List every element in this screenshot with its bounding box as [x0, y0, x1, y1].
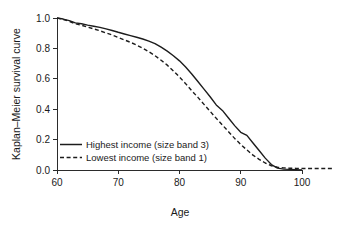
x-axis-ticks: 60708090100 — [51, 170, 310, 188]
chart-legend: Highest income (size band 3) Lowest inco… — [60, 139, 209, 163]
legend-label-lowest-income: Lowest income (size band 1) — [86, 152, 207, 163]
x-tick-label: 80 — [174, 177, 186, 188]
y-axis-title: Kaplan–Meier survival curve — [10, 28, 22, 160]
y-tick-label: 1.0 — [36, 13, 50, 24]
y-tick-label: 0.8 — [36, 43, 50, 54]
y-axis-ticks: 0.00.20.40.60.81.0 — [36, 13, 57, 176]
x-axis-title: Age — [171, 206, 190, 218]
legend-item-lowest-income: Lowest income (size band 1) — [60, 152, 207, 163]
x-tick-label: 60 — [51, 177, 63, 188]
x-tick-label: 70 — [113, 177, 125, 188]
y-tick-label: 0.2 — [36, 134, 50, 145]
y-tick-label: 0.4 — [36, 104, 50, 115]
x-tick-label: 90 — [235, 177, 247, 188]
legend-item-highest-income: Highest income (size band 3) — [60, 139, 209, 150]
x-tick-label: 100 — [294, 177, 311, 188]
kaplan-meier-figure: 0.00.20.40.60.81.0 60708090100 Age Kapla… — [0, 0, 342, 231]
y-tick-label: 0.6 — [36, 73, 50, 84]
legend-label-highest-income: Highest income (size band 3) — [86, 139, 209, 150]
y-tick-label: 0.0 — [36, 165, 50, 176]
kaplan-meier-chart: 0.00.20.40.60.81.0 60708090100 Age Kapla… — [0, 0, 342, 231]
